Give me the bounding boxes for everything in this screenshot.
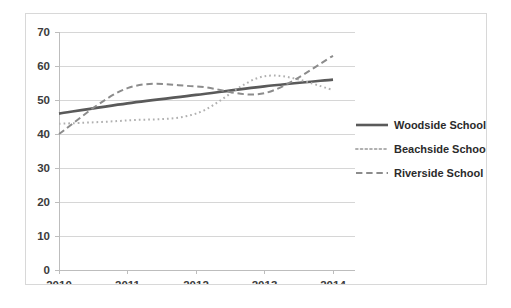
y-axis-tick-label: 50 <box>37 94 50 106</box>
x-axis-tick-label: 2013 <box>252 279 278 284</box>
x-axis-tick-label: 2012 <box>183 279 209 284</box>
y-axis-tick-label: 30 <box>37 162 50 174</box>
legend-label: Riverside School <box>394 167 483 179</box>
series-group <box>59 56 333 134</box>
y-axis-tick-label: 60 <box>37 60 50 72</box>
series-line-woodside-school <box>59 80 333 114</box>
x-axis-tick-labels: 20102011201220132014 <box>46 279 346 284</box>
x-axis-tick-label: 2010 <box>46 279 72 284</box>
y-axis-tick-label: 40 <box>37 128 50 140</box>
y-axis-tick-label: 70 <box>37 26 50 38</box>
y-axis-tick-labels: 010203040506070 <box>37 26 50 276</box>
chart-frame: 010203040506070 20102011201220132014 Woo… <box>25 13 487 285</box>
y-axis-tick-label: 0 <box>44 264 50 276</box>
line-chart: 010203040506070 20102011201220132014 Woo… <box>26 14 486 284</box>
axes-group <box>55 32 355 274</box>
x-axis-tick-label: 2014 <box>320 279 346 284</box>
legend-label: Beachside School <box>394 143 486 155</box>
chart-legend: Woodside SchoolBeachside SchoolRiverside… <box>356 119 486 179</box>
gridlines-group <box>59 32 355 270</box>
y-axis-tick-label: 10 <box>37 230 50 242</box>
x-axis-tick-label: 2011 <box>115 279 141 284</box>
y-axis-tick-label: 20 <box>37 196 50 208</box>
legend-label: Woodside School <box>394 119 486 131</box>
